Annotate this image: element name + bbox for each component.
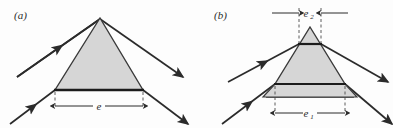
panel-b-dimension-label-e2: e <box>304 7 309 19</box>
panel-b-lower-slab <box>263 84 357 97</box>
panel-a-label: (a) <box>14 9 27 22</box>
panel-a-dimension-label-e: e <box>97 100 102 112</box>
panel-b-dimension-subscript-e1: 1 <box>310 113 314 121</box>
optics-prism-diagram: (a) e (b) <box>0 0 393 128</box>
panel-b-label: (b) <box>214 9 227 22</box>
figure-container: (a) e (b) <box>0 0 393 128</box>
panel-b-dimension-label-e1: e <box>304 107 309 119</box>
figure-background <box>0 0 393 128</box>
panel-b-dimension-subscript-e2: 2 <box>310 13 314 21</box>
